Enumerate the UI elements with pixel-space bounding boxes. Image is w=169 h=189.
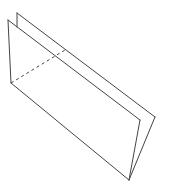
front-panel-right-edge (129, 120, 140, 180)
folded-card-diagram (0, 0, 169, 189)
front-panel (8, 20, 140, 180)
back-panel-top-edge (17, 13, 155, 117)
fold-crease-bottom-edge (11, 83, 129, 180)
back-panel (17, 13, 155, 180)
back-panel-right-edge (129, 117, 155, 180)
hidden-edge-dashed (11, 50, 65, 83)
front-panel-left-edge (8, 20, 11, 83)
front-panel-top-edge (8, 20, 140, 120)
